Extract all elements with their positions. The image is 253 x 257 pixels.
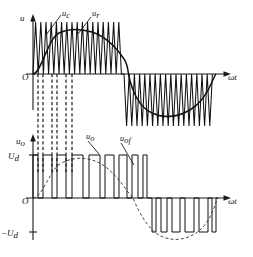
svg-text:uo: uo [86,132,94,143]
fundamental-waveform [33,158,218,239]
spwm-svg: u O ωt uc ur [0,0,253,257]
top-y-axis-label: u [20,13,25,23]
pwm-output-waveform [33,155,218,232]
reference-annotation: ur [78,9,100,34]
bottom-origin-label: O [22,196,29,206]
svg-text:uc: uc [62,9,70,20]
bottom-chart: uo Ud O −Ud ωt uo uof [1,132,237,240]
bottom-tick-label-positive: Ud [8,151,20,163]
output-annotation: uo [86,132,99,154]
svg-text:ur: ur [92,9,100,20]
top-x-axis-label: ωt [228,72,237,82]
svg-text:uof: uof [120,134,132,145]
top-origin-label: O [22,72,29,82]
spwm-figure: u O ωt uc ur [0,0,253,257]
bottom-x-axis-label: ωt [228,196,237,206]
bottom-tick-label-negative: −Ud [1,228,19,240]
bottom-y-axis-label: uo [16,136,26,148]
